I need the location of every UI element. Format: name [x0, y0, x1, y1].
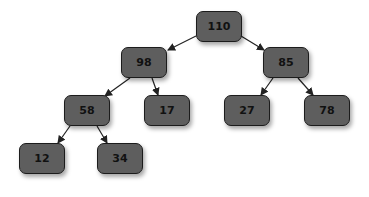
- tree-node-12: 12: [19, 143, 65, 174]
- edge-98-17: [152, 78, 158, 95]
- edge-98-58: [105, 78, 130, 96]
- tree-node-27: 27: [224, 95, 270, 126]
- tree-node-34: 34: [97, 143, 143, 174]
- tree-node-110: 110: [196, 11, 242, 42]
- edge-110-85: [241, 36, 264, 50]
- edge-58-12: [58, 126, 70, 143]
- edge-85-27: [261, 78, 273, 95]
- tree-node-85: 85: [263, 47, 309, 78]
- tree-node-78: 78: [304, 95, 350, 126]
- edge-58-34: [97, 126, 107, 143]
- tree-node-58: 58: [64, 95, 110, 126]
- tree-node-17: 17: [144, 95, 190, 126]
- edge-110-98: [168, 36, 196, 50]
- tree-node-98: 98: [121, 47, 167, 78]
- edge-85-78: [298, 78, 313, 95]
